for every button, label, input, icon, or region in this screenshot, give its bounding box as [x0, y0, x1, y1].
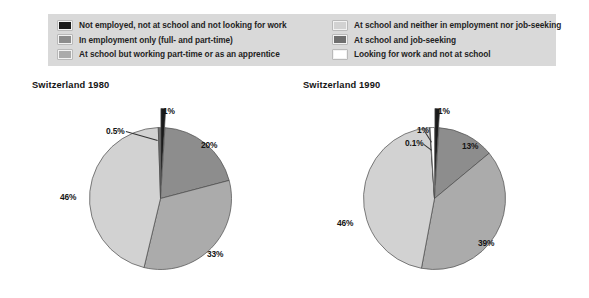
legend-panel: Not employed, not at school and not look…: [48, 14, 556, 66]
chart-1990-slice-label-0_1pct: 0.1%: [405, 138, 424, 148]
chart-title-1980: Switzerland 1980: [32, 80, 109, 90]
legend-item-not-employed-not-school-not-looking[interactable]: Not employed, not at school and not look…: [58, 18, 333, 33]
legend-item-label: Not employed, not at school and not look…: [79, 21, 287, 29]
chart-title-1990: Switzerland 1990: [303, 80, 380, 90]
legend-item-label: In employment only (full- and part-time): [79, 36, 233, 44]
legend-item-at-school-neither-employed-nor-jobseeking[interactable]: At school and neither in employment nor …: [333, 18, 558, 33]
chart-1990-slice-label-46pct: 46%: [337, 218, 353, 228]
legend-item-label: At school and job-seeking: [354, 36, 456, 44]
chart-1990-slice-label-13pct: 13%: [462, 141, 478, 151]
legend-swatch-icon: [333, 50, 347, 59]
chart-1980-slice-label-20pct: 20%: [201, 140, 217, 150]
legend-column-left: Not employed, not at school and not look…: [58, 18, 333, 62]
chart-1980-slice-label-0_5pct: 0.5%: [106, 126, 125, 136]
chart-1980-slice-label-46pct: 46%: [60, 192, 76, 202]
chart-1990-slice-label-1pct-black: 1%: [438, 106, 450, 116]
legend-swatch-icon: [58, 50, 72, 59]
legend-swatch-icon: [333, 35, 347, 44]
legend-swatch-icon: [333, 21, 347, 30]
pie-svg-1990: [362, 126, 507, 271]
legend-item-in-employment-only[interactable]: In employment only (full- and part-time): [58, 33, 333, 48]
legend-column-right: At school and neither in employment nor …: [333, 18, 558, 62]
pie-chart-1990: [362, 126, 507, 271]
chart-1990-slice-label-39pct: 39%: [478, 238, 494, 248]
legend-item-label: At school and neither in employment nor …: [354, 21, 561, 29]
legend-item-looking-for-work-not-at-school[interactable]: Looking for work and not at school: [333, 47, 558, 62]
legend-item-label: Looking for work and not at school: [354, 50, 491, 58]
legend-swatch-icon: [58, 21, 72, 30]
chart-1980-slice-label-1pct: 1%: [163, 106, 175, 116]
legend-swatch-icon: [58, 35, 72, 44]
legend-item-label: At school but working part-time or as an…: [79, 50, 280, 58]
chart-1980-slice-label-33pct: 33%: [207, 249, 223, 259]
legend-item-at-school-job-seeking[interactable]: At school and job-seeking: [333, 33, 558, 48]
pie-slice[interactable]: [364, 128, 435, 269]
legend-item-at-school-working-part-time[interactable]: At school but working part-time or as an…: [58, 47, 333, 62]
